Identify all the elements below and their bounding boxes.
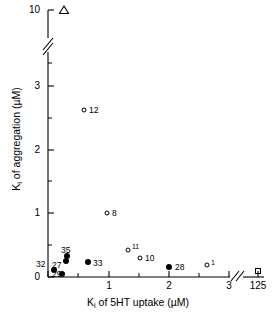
data-marker-triangle — [60, 6, 69, 14]
data-point-label-12: 12 — [89, 106, 98, 115]
y-axis-title: Ki of aggregation (µM) — [10, 44, 24, 234]
data-point-label-8: 8 — [112, 209, 117, 218]
y-axis-title-tail: of aggregation (µM) — [10, 87, 22, 182]
data-point-label-28: 28 — [175, 263, 184, 272]
data-point-8 — [105, 211, 110, 216]
x-axis-title-tail: of 5HT uptake (µM) — [96, 296, 189, 308]
y-tick-label-0: 0 — [18, 272, 40, 282]
y-axis-title-subscript: i — [15, 182, 24, 184]
data-point-label-1: 1 — [211, 259, 215, 266]
x-tick-label-1: 1 — [96, 281, 122, 291]
plot-area: 10 3 2 1 0 1 2 3 125 Ki of 5HT uptake (µ… — [0, 0, 276, 316]
data-point-27 — [63, 258, 69, 264]
x-axis-title: Ki of 5HT uptake (µM) — [0, 296, 276, 310]
data-point-1 — [205, 263, 210, 268]
data-point-label-32: 32 — [36, 260, 45, 269]
data-point-label-35: 35 — [61, 246, 70, 255]
data-point-label-29: 29 — [52, 270, 61, 279]
x-tick-label-125: 125 — [245, 281, 271, 291]
y-tick-label-10: 10 — [18, 5, 40, 15]
data-point-10 — [138, 256, 143, 261]
data-point-28 — [166, 264, 172, 270]
x-tick-label-2: 2 — [156, 281, 182, 291]
x-tick-label-3: 3 — [216, 281, 242, 291]
data-point-label-11: 11 — [132, 243, 139, 250]
data-point-label-33: 33 — [93, 259, 102, 268]
x-axis-title-k: K — [87, 296, 94, 308]
data-point-125-square — [255, 268, 261, 274]
scatter-plot-figure: 10 3 2 1 0 1 2 3 125 Ki of 5HT uptake (µ… — [0, 0, 276, 316]
data-point-label-10: 10 — [145, 254, 154, 263]
data-point-33 — [85, 259, 91, 265]
data-point-12 — [82, 108, 87, 113]
data-point-11 — [126, 248, 131, 253]
y-axis-title-k: K — [10, 184, 22, 191]
